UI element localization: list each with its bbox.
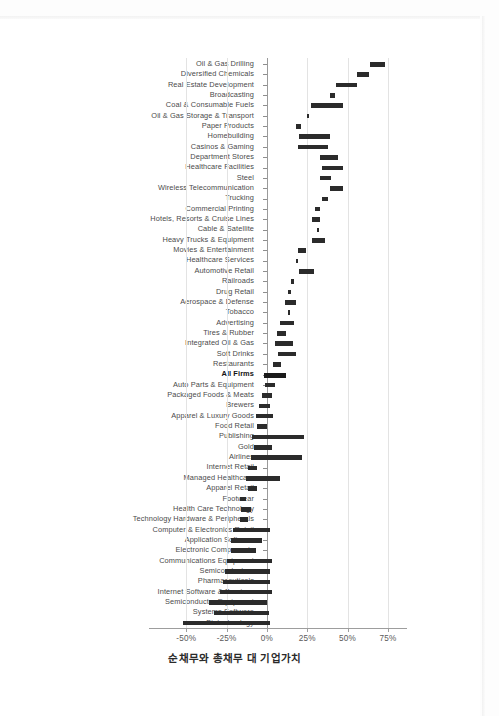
range-bar bbox=[280, 321, 295, 326]
row-tick bbox=[263, 312, 267, 313]
range-bar bbox=[257, 424, 267, 429]
row-tick bbox=[263, 178, 267, 179]
range-bar bbox=[254, 445, 272, 450]
x-tick bbox=[388, 628, 389, 632]
range-bar bbox=[278, 352, 296, 357]
range-bar bbox=[231, 548, 255, 553]
row-tick bbox=[263, 333, 267, 334]
range-bar bbox=[288, 290, 291, 295]
range-bar bbox=[183, 621, 270, 626]
row-tick bbox=[263, 136, 267, 137]
range-bar bbox=[225, 569, 270, 574]
range-bar bbox=[315, 207, 320, 212]
range-bar bbox=[248, 486, 258, 491]
row-tick bbox=[263, 188, 267, 189]
x-tick bbox=[348, 628, 349, 632]
zero-axis-spine bbox=[267, 58, 268, 628]
row-tick bbox=[263, 126, 267, 127]
range-bar bbox=[273, 362, 281, 367]
row-tick bbox=[263, 230, 267, 231]
gridline-75 bbox=[388, 58, 389, 628]
x-tick bbox=[186, 628, 187, 632]
range-bar bbox=[252, 435, 304, 440]
gridline--50 bbox=[186, 58, 187, 628]
row-tick bbox=[263, 95, 267, 96]
row-tick bbox=[263, 64, 267, 65]
range-bar bbox=[241, 507, 251, 512]
x-tick bbox=[227, 628, 228, 632]
row-tick bbox=[263, 323, 267, 324]
range-bar bbox=[307, 114, 309, 119]
row-tick bbox=[263, 364, 267, 365]
row-tick bbox=[263, 261, 267, 262]
range-bar bbox=[288, 310, 290, 315]
range-bar bbox=[285, 300, 296, 305]
row-tick bbox=[263, 292, 267, 293]
range-bar bbox=[240, 517, 248, 522]
range-bar bbox=[233, 528, 270, 533]
row-tick bbox=[263, 468, 267, 469]
range-bar bbox=[265, 383, 275, 388]
range-bar bbox=[330, 186, 343, 191]
row-tick bbox=[263, 343, 267, 344]
range-bar bbox=[296, 124, 301, 129]
range-bar bbox=[256, 414, 274, 419]
row-tick bbox=[263, 74, 267, 75]
range-bar bbox=[330, 93, 335, 98]
range-bar bbox=[312, 217, 320, 222]
range-bar bbox=[248, 466, 258, 471]
range-bar bbox=[320, 176, 331, 181]
x-tick-label: 75% bbox=[366, 634, 410, 643]
x-tick-label: -50% bbox=[164, 634, 208, 643]
row-tick bbox=[263, 488, 267, 489]
range-bar bbox=[251, 455, 303, 460]
row-tick bbox=[263, 105, 267, 106]
range-bar bbox=[336, 83, 357, 88]
range-bar bbox=[227, 559, 272, 564]
row-tick bbox=[263, 540, 267, 541]
row-tick bbox=[263, 116, 267, 117]
x-tick-label: -25% bbox=[205, 634, 249, 643]
row-tick bbox=[263, 157, 267, 158]
row-tick bbox=[263, 199, 267, 200]
row-tick bbox=[263, 302, 267, 303]
range-bar bbox=[209, 600, 267, 605]
range-bar bbox=[370, 62, 385, 67]
row-tick bbox=[263, 219, 267, 220]
range-bar bbox=[291, 279, 294, 284]
range-bar bbox=[277, 331, 287, 336]
range-bar-chart: Oil & Gas DrillingDiversified ChemicalsR… bbox=[0, 0, 499, 716]
row-tick bbox=[263, 519, 267, 520]
row-tick bbox=[263, 281, 267, 282]
chart-caption: 순채무와 총채무 대 기업가치 bbox=[0, 650, 470, 665]
x-tick-label: 50% bbox=[326, 634, 370, 643]
row-tick bbox=[263, 209, 267, 210]
row-tick bbox=[263, 168, 267, 169]
x-tick-label: 25% bbox=[285, 634, 329, 643]
x-tick bbox=[267, 628, 268, 632]
range-bar bbox=[312, 238, 325, 243]
row-tick bbox=[263, 354, 267, 355]
range-bar bbox=[311, 103, 343, 108]
range-bar bbox=[322, 197, 328, 202]
range-bar bbox=[223, 580, 270, 585]
row-tick bbox=[263, 85, 267, 86]
range-bar bbox=[320, 155, 338, 160]
range-bar bbox=[246, 476, 280, 481]
row-tick bbox=[263, 240, 267, 241]
range-bar bbox=[357, 72, 368, 77]
range-bar bbox=[298, 248, 306, 253]
row-tick bbox=[263, 271, 267, 272]
range-bar bbox=[296, 259, 298, 264]
range-bar bbox=[298, 145, 329, 150]
range-bar bbox=[264, 373, 287, 378]
row-tick bbox=[263, 509, 267, 510]
range-bar bbox=[240, 497, 246, 502]
range-bar bbox=[299, 134, 330, 139]
x-tick bbox=[307, 628, 308, 632]
range-bar bbox=[231, 538, 262, 543]
range-bar bbox=[322, 166, 343, 171]
x-axis-line bbox=[149, 628, 407, 629]
row-tick bbox=[263, 250, 267, 251]
row-tick bbox=[263, 147, 267, 148]
